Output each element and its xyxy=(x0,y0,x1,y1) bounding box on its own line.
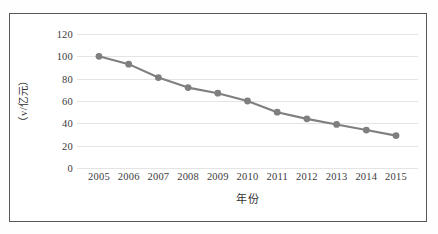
data-point-2015 xyxy=(393,132,400,139)
x-tick-label-2008: 2008 xyxy=(177,171,199,182)
y-tick-label-0: 0 xyxy=(68,163,73,174)
x-tick-label-2007: 2007 xyxy=(147,171,169,182)
line-series-v xyxy=(77,34,418,168)
x-tick-label-2010: 2010 xyxy=(237,171,259,182)
x-axis-tick-labels: 2005200620072008200920102011201220132014… xyxy=(77,171,418,187)
y-tick-label-100: 100 xyxy=(57,51,73,62)
data-point-2014 xyxy=(363,127,370,134)
data-point-2013 xyxy=(333,121,340,128)
y-tick-label-40: 40 xyxy=(62,118,73,129)
x-tick-label-2015: 2015 xyxy=(385,171,407,182)
data-point-2011 xyxy=(274,109,281,116)
data-point-2010 xyxy=(244,98,251,105)
y-tick-label-80: 80 xyxy=(62,73,73,84)
series-line xyxy=(99,56,396,135)
y-axis-title: （v/亿元） xyxy=(15,75,30,126)
x-tick-label-2013: 2013 xyxy=(326,171,348,182)
gridline-y-0 xyxy=(77,168,418,169)
x-tick-label-2009: 2009 xyxy=(207,171,229,182)
y-tick-label-60: 60 xyxy=(62,96,73,107)
plot-area xyxy=(77,34,418,168)
data-point-2012 xyxy=(304,115,311,122)
x-tick-label-2014: 2014 xyxy=(355,171,377,182)
data-point-2005 xyxy=(96,53,103,60)
y-axis-tick-labels: 020406080100120 xyxy=(46,34,73,168)
data-point-2009 xyxy=(214,90,221,97)
data-point-2008 xyxy=(185,84,192,91)
figure-root: （v/亿元） 020406080100120 20052006200720082… xyxy=(0,0,438,234)
y-tick-label-20: 20 xyxy=(62,140,73,151)
x-tick-label-2006: 2006 xyxy=(118,171,140,182)
x-axis-title: 年份 xyxy=(77,190,418,206)
data-point-2006 xyxy=(125,61,132,68)
x-tick-label-2012: 2012 xyxy=(296,171,318,182)
x-tick-label-2005: 2005 xyxy=(88,171,110,182)
x-tick-label-2011: 2011 xyxy=(266,171,287,182)
data-point-2007 xyxy=(155,74,162,81)
y-tick-label-120: 120 xyxy=(57,29,73,40)
